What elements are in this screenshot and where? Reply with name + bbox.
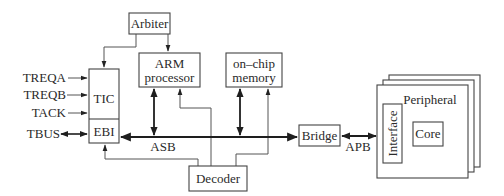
on-chip-memory-block: on–chip memory	[226, 53, 282, 87]
tack-label: TACK	[32, 105, 67, 120]
treqb-label: TREQB	[23, 87, 66, 102]
bridge-label: Bridge	[302, 128, 338, 143]
decoder-block: Decoder	[189, 166, 247, 191]
tic-label: TIC	[94, 91, 115, 106]
memory-label: memory	[232, 70, 276, 85]
decoder-label: Decoder	[196, 171, 241, 186]
arbiter-block: Arbiter	[129, 13, 170, 34]
arm-processor-block: ARM processor	[139, 53, 200, 87]
ebi-label: EBI	[94, 124, 115, 139]
tbus-label: TBUS	[27, 126, 60, 141]
arm-label: ARM	[155, 56, 185, 71]
processor-label: processor	[145, 70, 195, 85]
arbiter-label: Arbiter	[131, 16, 169, 31]
peripheral-stack: Peripheral Interface Core	[377, 75, 480, 178]
bridge-block: Bridge	[299, 125, 340, 146]
core-block: Core	[413, 122, 443, 146]
tic-ebi-block: TIC EBI	[89, 69, 119, 143]
interface-label: Interface	[385, 110, 400, 156]
apb-label: APB	[345, 139, 371, 154]
asb-label: ASB	[150, 139, 176, 154]
peripheral-label: Peripheral	[403, 92, 457, 107]
decoder-to-arm-wire	[180, 89, 211, 166]
arbiter-to-tic-wire	[104, 34, 136, 67]
on-chip-label: on–chip	[233, 56, 275, 71]
soc-block-diagram: Arbiter ARM processor on–chip memory TIC…	[0, 0, 504, 196]
treqa-label: TREQA	[23, 70, 67, 85]
interface-block: Interface	[383, 104, 402, 163]
core-label: Core	[415, 126, 441, 141]
